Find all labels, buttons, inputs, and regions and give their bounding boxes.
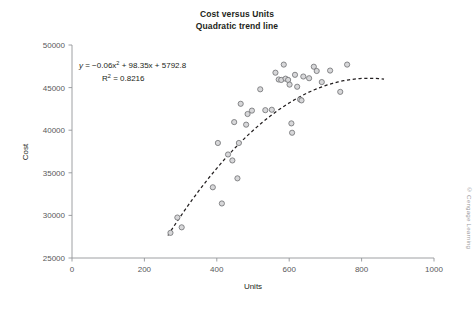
scatter-point	[269, 107, 274, 112]
scatter-point	[225, 152, 230, 157]
x-tick-label: 800	[355, 265, 369, 274]
equation-rest: + 98.35x + 5792.8	[119, 61, 186, 70]
r-squared-value: = 0.8216	[111, 74, 145, 83]
scatter-point	[236, 140, 241, 145]
scatter-point	[319, 79, 324, 84]
scatter-point	[295, 84, 300, 89]
x-tick-label: 0	[70, 265, 75, 274]
scatter-point	[338, 89, 343, 94]
equation-body: = −0.06x	[83, 61, 116, 70]
scatter-point	[307, 76, 312, 81]
scatter-point	[287, 82, 292, 87]
copyright-watermark: © Cengage Learning	[466, 186, 473, 249]
scatter-point	[244, 122, 249, 127]
scatter-point	[273, 70, 278, 75]
scatter-point	[301, 74, 306, 79]
x-tick-label: 200	[138, 265, 152, 274]
scatter-point	[292, 72, 297, 77]
y-tick-label: 25000	[43, 254, 66, 263]
y-tick-label: 40000	[43, 126, 66, 135]
scatter-point	[215, 140, 220, 145]
y-axis-ticks: 250003000035000400004500050000	[43, 41, 72, 263]
scatter-point	[328, 68, 333, 73]
x-axis-title: Units	[244, 282, 262, 291]
scatter-point	[219, 201, 224, 206]
scatter-point	[235, 176, 240, 181]
scatter-point	[168, 230, 173, 235]
scatter-point	[289, 121, 294, 126]
y-tick-label: 45000	[43, 84, 66, 93]
scatter-point	[179, 225, 184, 230]
y-tick-label: 35000	[43, 169, 66, 178]
y-axis-title: Cost	[21, 143, 30, 160]
scatter-point	[232, 120, 237, 125]
scatter-point	[230, 158, 235, 163]
scatter-point	[238, 101, 243, 106]
x-tick-label: 1000	[425, 265, 443, 274]
scatter-point	[314, 68, 319, 73]
x-axis-ticks: 02004006008001000	[70, 258, 444, 274]
quadratic-trend-line	[168, 78, 384, 235]
r-squared-annotation: R2 = 0.8216	[102, 73, 145, 83]
x-tick-label: 600	[283, 265, 297, 274]
trendline-equation: y = −0.06x2 + 98.35x + 5792.8	[78, 60, 187, 70]
scatter-point	[258, 87, 263, 92]
chart-canvas: 250003000035000400004500050000 020040060…	[0, 0, 474, 310]
scatter-point	[249, 108, 254, 113]
scatter-point	[345, 62, 350, 67]
scatter-point	[210, 185, 215, 190]
y-tick-label: 30000	[43, 211, 66, 220]
scatter-point	[281, 62, 286, 67]
scatter-point	[299, 98, 304, 103]
x-tick-label: 400	[210, 265, 224, 274]
scatter-points	[168, 62, 350, 235]
scatter-point	[289, 130, 294, 135]
chart-figure: Cost versus Units Quadratic trend line 2…	[0, 0, 474, 310]
y-tick-label: 50000	[43, 41, 66, 50]
scatter-point	[175, 215, 180, 220]
scatter-point	[263, 108, 268, 113]
